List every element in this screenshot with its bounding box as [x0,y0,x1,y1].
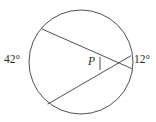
geometry-figure: 42° 12° P [0,0,156,122]
left-arc-angle-label: 42° [4,54,20,66]
intersection-point-label: P [88,56,95,68]
upper-chord [42,29,132,69]
geometry-canvas [0,0,156,122]
right-arc-angle-label: 12° [134,54,150,66]
